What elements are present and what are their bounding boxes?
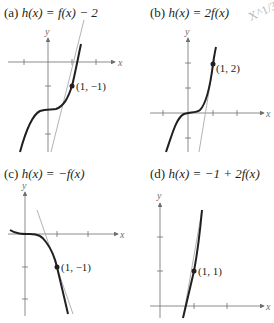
x-axis-label: x bbox=[265, 301, 271, 312]
x-axis-label: x bbox=[117, 57, 123, 68]
x-axis-label: x bbox=[265, 108, 271, 119]
y-axis-label: y bbox=[21, 180, 27, 191]
y-axis-label: y bbox=[44, 26, 50, 37]
y-axis-label: y bbox=[184, 26, 190, 37]
curve bbox=[10, 230, 68, 314]
panel-d-graph: x y (1, 1) bbox=[150, 190, 271, 318]
point-marker bbox=[211, 62, 216, 67]
point-label: (1, 2) bbox=[216, 62, 240, 75]
point-label: (1, −1) bbox=[61, 261, 91, 274]
graphs-canvas: x y (1, −1) x y (1, 2) x y (1, −1) bbox=[0, 0, 274, 323]
x-axis-label: x bbox=[119, 229, 125, 240]
panel-a-graph: x y (1, −1) bbox=[8, 20, 123, 152]
panel-c-graph: x y (1, −1) bbox=[8, 180, 125, 316]
point-marker bbox=[70, 84, 75, 89]
point-marker bbox=[192, 269, 197, 274]
ticks bbox=[24, 59, 96, 134]
y-axis-label: y bbox=[156, 190, 162, 201]
point-label: (1, −1) bbox=[76, 80, 106, 93]
panel-b-graph: x y (1, 2) bbox=[150, 26, 271, 152]
point-label: (1, 1) bbox=[198, 265, 222, 278]
point-marker bbox=[55, 265, 60, 270]
